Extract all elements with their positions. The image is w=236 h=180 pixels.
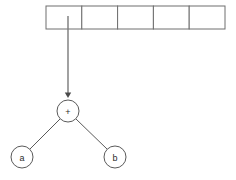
tree-nodes: +ab bbox=[11, 100, 126, 168]
tree-edge-root-left bbox=[30, 119, 60, 149]
diagram-canvas: +ab bbox=[0, 0, 236, 180]
tree-node-label-root: + bbox=[65, 107, 70, 117]
tree-node-label-right: b bbox=[112, 153, 117, 163]
expression-tree-diagram: +ab bbox=[0, 0, 236, 180]
array-cell[interactable] bbox=[82, 6, 118, 29]
pointer-arrowhead-icon bbox=[65, 93, 71, 99]
tree-edges bbox=[30, 119, 107, 149]
array-cell[interactable] bbox=[153, 6, 189, 29]
array-cell[interactable] bbox=[118, 6, 154, 29]
cell-array bbox=[46, 6, 225, 29]
array-cell[interactable] bbox=[189, 6, 225, 29]
tree-node-label-left: a bbox=[19, 153, 24, 163]
array-cell[interactable] bbox=[46, 6, 82, 29]
tree-edge-root-right bbox=[76, 119, 107, 149]
